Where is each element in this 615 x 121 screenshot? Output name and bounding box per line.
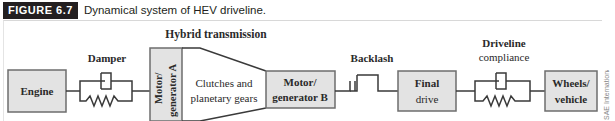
compliance-label-line1: Driveline [482, 37, 525, 49]
driveline-compliance-element [475, 73, 530, 106]
compliance-label-line2: compliance [479, 51, 530, 63]
svg-text:generator B: generator B [272, 91, 328, 103]
svg-text:generator A: generator A [167, 63, 178, 117]
svg-text:planetary gears: planetary gears [191, 92, 258, 104]
svg-text:Clutches and: Clutches and [195, 77, 253, 89]
motor-generator-b-block: Motor/ generator B [266, 71, 335, 108]
final-drive-block: Final drive [398, 71, 456, 111]
svg-text:Motor/: Motor/ [153, 71, 164, 104]
svg-text:Engine: Engine [20, 85, 53, 97]
engine-block: Engine [8, 70, 66, 112]
svg-text:Final: Final [415, 77, 439, 89]
svg-text:Wheels/: Wheels/ [552, 77, 590, 89]
backlash-element [335, 75, 398, 91]
image-credit: SAE International [603, 70, 615, 120]
motor-generator-a-block: Motor/ generator A [150, 48, 182, 121]
hybrid-transmission-label: Hybrid transmission [165, 28, 267, 41]
damper-element [80, 73, 132, 106]
backlash-label: Backlash [351, 52, 394, 64]
damper-label: Damper [88, 52, 127, 64]
svg-text:Motor/: Motor/ [284, 76, 318, 88]
driveline-diagram: Hybrid transmission Engine Damper Motor/… [0, 0, 615, 121]
clutches-planetary-gears-block: Clutches and planetary gears [182, 48, 266, 121]
svg-text:drive: drive [416, 93, 439, 105]
wheels-vehicle-block: Wheels/ vehicle [545, 71, 597, 111]
svg-text:vehicle: vehicle [555, 93, 587, 105]
